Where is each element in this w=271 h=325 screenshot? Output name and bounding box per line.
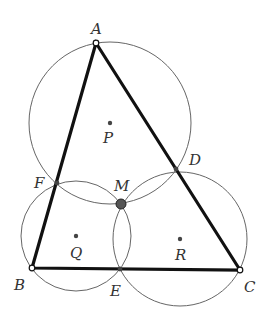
label-c: C (244, 278, 256, 296)
point-f (55, 181, 60, 186)
vertex-b (29, 265, 35, 271)
point-p (108, 121, 112, 125)
point-q (74, 234, 78, 238)
vertex-a (93, 40, 99, 46)
point-d (174, 167, 179, 172)
label-b: B (13, 276, 25, 294)
point-r (178, 237, 182, 241)
triangle-abc (32, 43, 240, 270)
label-q: Q (70, 244, 82, 262)
label-d: D (188, 151, 201, 169)
label-a: A (89, 20, 102, 38)
label-r: R (174, 246, 186, 264)
label-m: M (113, 177, 130, 195)
point-m (116, 199, 126, 209)
label-p: P (102, 129, 114, 147)
point-e (118, 267, 123, 272)
geometry-diagram: A P D F M Q R B E C (0, 0, 271, 325)
vertex-c (237, 267, 243, 273)
label-f: F (33, 174, 45, 192)
label-e: E (109, 282, 121, 300)
